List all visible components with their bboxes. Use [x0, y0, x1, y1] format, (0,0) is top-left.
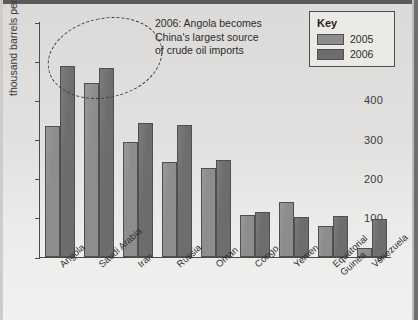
scan-edge-right	[414, 0, 418, 320]
chart-page: thousand barrels per day 600500400300200…	[0, 0, 418, 320]
bar-2006	[216, 160, 231, 257]
bar-2005	[45, 126, 60, 257]
x-axis-label-cell: Oman	[196, 260, 235, 318]
bar-2006	[177, 125, 192, 257]
legend-box: Key 20052006	[309, 11, 395, 67]
y-axis-tick	[35, 258, 40, 259]
x-axis-label-cell: Venezuela	[352, 260, 391, 318]
x-axis-labels: AngolaSaudi ArabiaIranRussiaOmanCongoYem…	[40, 260, 391, 318]
legend-title: Key	[317, 17, 387, 29]
x-axis-label-cell: Equatorial Guinea	[313, 260, 352, 318]
legend-swatch-icon	[317, 34, 344, 45]
bar-2005	[318, 226, 333, 257]
x-axis-label-cell: Congo	[235, 260, 274, 318]
x-axis-label-cell: Angola	[40, 260, 79, 318]
x-axis-label-cell: Iran	[118, 260, 157, 318]
chart-annotation: 2006: Angola becomes China's largest sou…	[155, 17, 262, 58]
scan-edge-left	[0, 0, 3, 320]
legend-item[interactable]: 2006	[317, 48, 387, 60]
bar-2005	[279, 202, 294, 257]
bar-2005	[162, 162, 177, 257]
legend-swatch-icon	[317, 49, 344, 60]
y-axis-title: thousand barrels per day	[7, 0, 19, 96]
legend-label: 2005	[350, 33, 373, 45]
bar-2005	[240, 215, 255, 257]
legend-label: 2006	[350, 48, 373, 60]
bar-2005	[84, 83, 99, 257]
x-axis-label-cell: Yemen	[274, 260, 313, 318]
x-axis-label-cell: Saudi Arabia	[79, 260, 118, 318]
bar-2005	[201, 168, 216, 257]
legend-item[interactable]: 2005	[317, 33, 387, 45]
bar-group	[274, 22, 313, 257]
legend-items: 20052006	[317, 33, 387, 60]
x-axis-label-cell: Russia	[157, 260, 196, 318]
scan-edge-top	[0, 0, 418, 4]
